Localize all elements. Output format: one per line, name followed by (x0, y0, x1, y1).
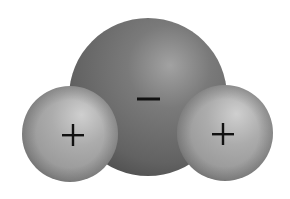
molecule-canvas: − + + (0, 0, 290, 199)
water-molecule-diagram: − + + (0, 0, 290, 199)
negative-charge-icon (137, 98, 160, 101)
